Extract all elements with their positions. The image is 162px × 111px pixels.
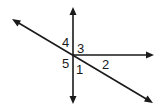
arrow-up-icon	[70, 7, 77, 15]
angle-label-3: 3	[77, 41, 84, 56]
diagonal-line	[12, 19, 153, 103]
angle-label-1: 1	[76, 62, 83, 77]
arrow-lower-right-icon	[144, 96, 153, 104]
arrow-down-icon	[70, 96, 77, 104]
angle-label-5: 5	[62, 56, 69, 71]
angle-label-4: 4	[62, 35, 69, 50]
angle-label-2: 2	[102, 57, 109, 72]
horizontal-ray	[73, 52, 154, 59]
arrow-upper-left-icon	[12, 19, 21, 27]
arrow-right-icon	[146, 52, 154, 59]
angle-diagram: 4 3 5 1 2	[0, 0, 162, 111]
